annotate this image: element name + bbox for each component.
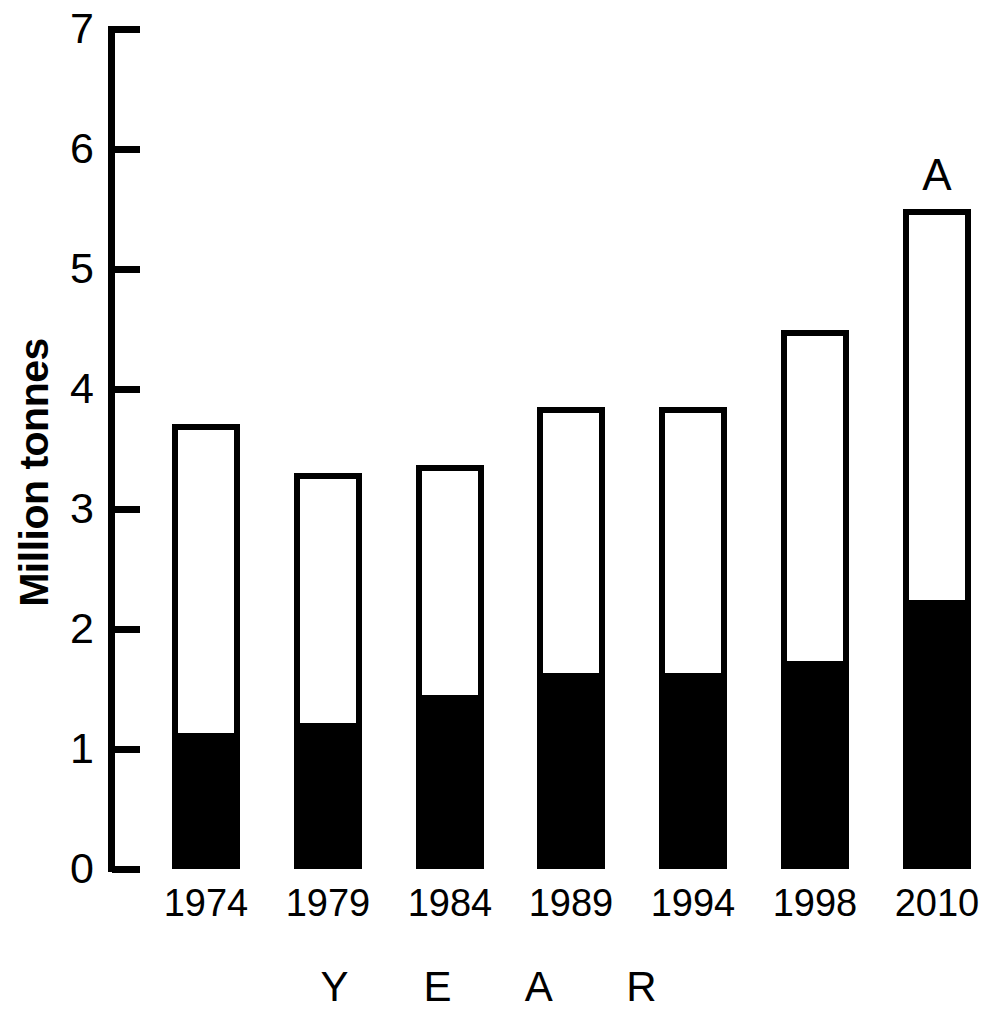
bar-filled-segment [178, 733, 234, 863]
x-axis-title: Y E A R [0, 966, 977, 1008]
x-axis-tick-label-1998: 1998 [767, 884, 863, 922]
bar-filled-segment [665, 673, 721, 863]
bar-filled-segment [543, 673, 599, 863]
x-axis-tick-label-1994: 1994 [645, 884, 741, 922]
bar-1998 [781, 330, 849, 869]
x-axis-tick-label-1974: 1974 [158, 884, 254, 922]
bar-filled-segment [422, 695, 478, 863]
x-axis-tick-label-1979: 1979 [280, 884, 376, 922]
bar-1989 [537, 407, 605, 869]
bar-1984 [416, 465, 484, 869]
x-axis-tick-label-1989: 1989 [523, 884, 619, 922]
bar-filled-segment [909, 600, 965, 863]
bar-1974 [172, 424, 240, 869]
bar-2010 [903, 209, 971, 869]
x-axis-tick-label-1984: 1984 [402, 884, 498, 922]
bar-1979 [294, 473, 362, 869]
bar-filled-segment [787, 661, 843, 863]
bar-1994 [659, 407, 727, 869]
x-axis-tick-label-2010: 2010 [889, 884, 983, 922]
bar-filled-segment [300, 723, 356, 863]
bar-annotation-2010: A [903, 153, 971, 197]
